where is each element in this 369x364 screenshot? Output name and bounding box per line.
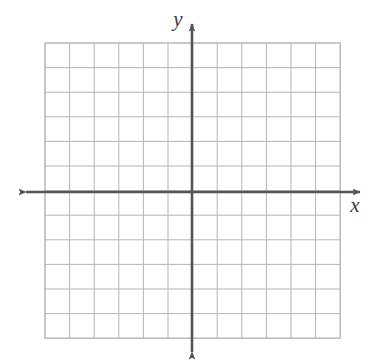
x-axis-label: x xyxy=(349,193,360,217)
y-axis-label: y xyxy=(171,7,183,31)
graph-svg: y x xyxy=(0,0,369,364)
coordinate-plane-figure: y x xyxy=(0,0,369,364)
